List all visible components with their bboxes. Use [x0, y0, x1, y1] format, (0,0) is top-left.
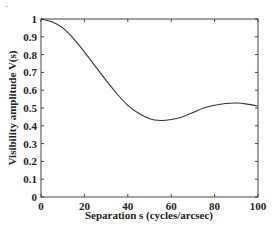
y-tick-label: 0.9: [23, 31, 37, 43]
plot-border: [41, 19, 258, 197]
y-tick-label: 0.1: [23, 173, 37, 185]
y-tick-label: 1: [32, 13, 38, 25]
y-tick-label: 0.6: [23, 84, 37, 96]
y-tick-label: 0.8: [23, 49, 37, 61]
line-chart: 00.10.20.30.40.50.60.70.80.91 0204060801…: [0, 0, 277, 234]
y-tick-label: 0.7: [23, 66, 37, 78]
y-tick-label: 0.3: [23, 138, 37, 150]
plot-frame: [41, 19, 258, 197]
x-tick-label: 100: [250, 200, 267, 212]
y-tick-label: 0: [32, 191, 38, 203]
visibility-curve: [41, 19, 258, 120]
y-axis: 00.10.20.30.40.50.60.70.80.91: [23, 13, 258, 203]
x-axis: 020406080100: [38, 19, 267, 212]
y-tick-label: 0.5: [23, 102, 37, 114]
y-axis-label: Visibility amplitude V(s): [6, 50, 19, 165]
y-tick-label: 0.4: [23, 120, 37, 132]
y-tick-label: 0.2: [23, 155, 37, 167]
x-tick-label: 0: [38, 200, 44, 212]
x-axis-label: Separation s (cycles/arcsec): [85, 209, 213, 222]
